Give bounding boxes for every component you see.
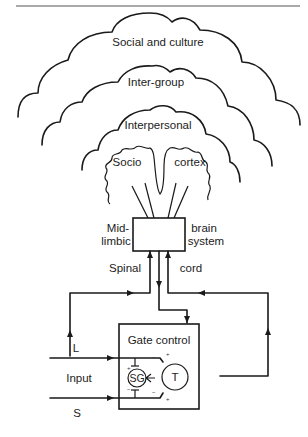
sg-label: SG [129, 372, 144, 384]
midbrain-right-label-1: brain [191, 222, 217, 234]
t-label: T [171, 371, 178, 383]
sign-plus-l: + [166, 351, 170, 357]
cortex-outline [105, 146, 211, 204]
midbrain-box [133, 218, 185, 251]
arrow-right-l-input [107, 355, 114, 361]
cloud-intergroup-label: Inter-group [128, 76, 184, 88]
midbrain-left-label-1: Mid- [107, 222, 130, 234]
arrow-up-spinal-right [165, 251, 171, 258]
sign-minus-sg: − [127, 386, 131, 392]
sign-plus-sg: + [127, 365, 131, 371]
cortex-fiber-2 [145, 183, 154, 218]
cloud-social-label: Social and culture [112, 36, 203, 48]
arrow-left-loop-right [198, 290, 205, 296]
input-s-label: S [73, 407, 81, 419]
midbrain-left-label-2: limbic [101, 235, 131, 247]
arrow-up-loop-left [67, 330, 73, 337]
cortex-right-label: cortex [174, 156, 206, 168]
arrow-down-spinal [156, 281, 162, 288]
cortex-left-label: Socio [113, 156, 142, 168]
input-label: Input [66, 372, 92, 384]
spinal-left-label: Spinal [109, 262, 141, 274]
spinal-right-label: cord [180, 262, 202, 274]
sign-minus-l: − [152, 354, 156, 360]
cloud-interpersonal [82, 106, 240, 182]
gate-control-diagram: Social and culture Inter-group Interpers… [0, 0, 308, 437]
cortex-fiber-4 [174, 186, 188, 218]
cortex-fiber-1 [132, 186, 148, 218]
sign-minus-s: − [152, 389, 156, 395]
arrow-down-gate [184, 316, 190, 323]
arrow-right-loop-left [127, 290, 134, 296]
midbrain-right-label-2: system [188, 235, 224, 247]
cortex-fiber-3 [168, 183, 176, 218]
arrow-right-s-input [107, 395, 114, 401]
input-l-label: L [73, 342, 80, 354]
gate-control-title: Gate control [128, 334, 191, 346]
arrow-up-loop-right [265, 328, 271, 335]
arrow-up-spinal-left [147, 251, 153, 258]
sign-plus-s: + [166, 396, 170, 402]
cloud-social-culture [18, 13, 300, 125]
cloud-interpersonal-label: Interpersonal [124, 119, 191, 131]
